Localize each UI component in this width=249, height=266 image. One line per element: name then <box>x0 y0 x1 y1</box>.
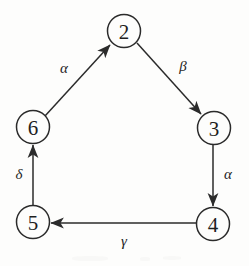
edge-label-alpha-6-2: α <box>60 60 69 76</box>
node-4[interactable]: 4 <box>197 208 230 241</box>
edge-4-to-5[interactable]: γ <box>51 223 196 249</box>
edge-label-alpha-3-4: α <box>224 166 233 182</box>
edge-line-2-3 <box>137 43 201 114</box>
node-3[interactable]: 3 <box>198 112 231 145</box>
edge-2-to-3[interactable]: β <box>137 43 201 114</box>
edge-3-to-4[interactable]: α <box>213 145 233 206</box>
edge-6-to-2[interactable]: α <box>45 45 110 116</box>
node-4-label: 4 <box>208 213 219 237</box>
node-5[interactable]: 5 <box>17 206 50 239</box>
figure-canvas: α β α γ δ 2 <box>0 0 249 266</box>
edge-line-6-2 <box>45 45 110 116</box>
edge-5-to-6[interactable]: δ <box>16 145 33 205</box>
node-2[interactable]: 2 <box>108 15 141 48</box>
edge-label-beta-2-3: β <box>178 58 187 74</box>
node-6[interactable]: 6 <box>17 111 50 144</box>
node-6-label: 6 <box>28 116 39 140</box>
nodes-group: 2 6 3 5 4 <box>17 15 231 241</box>
node-2-label: 2 <box>119 20 130 44</box>
node-5-label: 5 <box>28 211 39 235</box>
edge-label-delta-5-6: δ <box>16 166 24 182</box>
edge-label-gamma-4-5: γ <box>121 233 128 249</box>
directed-graph-diagram: α β α γ δ 2 <box>0 0 249 266</box>
node-3-label: 3 <box>209 117 220 141</box>
